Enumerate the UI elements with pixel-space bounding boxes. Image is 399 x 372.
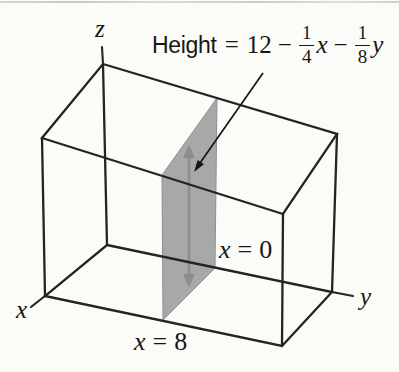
volume-slab-figure: z x y x=0 x=8 Height = 12 − 1 4 x − 1 8 … — [0, 0, 399, 372]
box-edge-back-right — [332, 134, 337, 292]
formula-minus-2: − — [334, 31, 348, 59]
formula-fraction-one-fourth: 1 4 — [299, 23, 315, 67]
axis-label-y: y — [357, 283, 372, 310]
box-edge-front-right — [282, 214, 283, 346]
height-formula: Height = 12 − 1 4 x − 1 8 y — [152, 23, 383, 67]
label-x0-equals: = — [238, 235, 253, 264]
box-edge-back-left — [103, 64, 107, 245]
fraction-numerator: 1 — [299, 23, 315, 46]
fraction-denominator: 4 — [302, 46, 312, 68]
label-x8-equals: = — [153, 327, 168, 356]
axis-label-x: x — [15, 296, 27, 323]
axis-label-z: z — [94, 15, 105, 42]
formula-variable-y: y — [372, 31, 383, 59]
fraction-denominator: 8 — [358, 46, 368, 68]
label-x-equals-0: x=0 — [218, 235, 272, 264]
label-x0-value: 0 — [259, 235, 272, 264]
formula-minus-1: − — [278, 31, 292, 59]
y-axis-line — [332, 292, 353, 296]
formula-equals: = — [225, 31, 239, 59]
formula-number-12: 12 — [247, 31, 272, 59]
z-axis-line — [102, 47, 103, 64]
label-x8-variable: x — [133, 327, 146, 356]
x-axis-line — [31, 296, 45, 307]
formula-fraction-one-eighth: 1 8 — [355, 23, 371, 67]
formula-variable-x: x — [316, 31, 327, 59]
label-x8-value: 8 — [174, 327, 187, 356]
formula-height-word: Height — [152, 32, 217, 59]
label-x-equals-8: x=8 — [133, 327, 187, 356]
fraction-numerator: 1 — [355, 23, 371, 46]
box-edge-front-left — [42, 138, 45, 296]
label-x0-variable: x — [218, 235, 231, 264]
